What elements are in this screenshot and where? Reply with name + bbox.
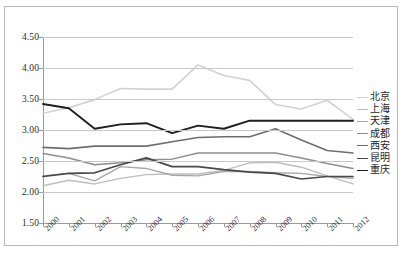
legend-swatch-icon bbox=[357, 121, 368, 122]
y-tick-mark bbox=[39, 130, 43, 131]
legend-item[interactable]: 天津 bbox=[357, 115, 404, 127]
legend-swatch-icon bbox=[357, 109, 368, 110]
y-tick-label: 2.50 bbox=[22, 156, 39, 166]
x-tick-mark bbox=[69, 223, 70, 227]
x-tick-mark bbox=[224, 223, 225, 227]
x-tick-mark bbox=[172, 223, 173, 227]
y-tick-mark bbox=[39, 68, 43, 69]
gridline bbox=[43, 192, 353, 193]
series-line bbox=[43, 104, 353, 133]
x-tick-mark bbox=[43, 223, 44, 227]
x-tick-mark bbox=[198, 223, 199, 227]
gridline bbox=[43, 68, 353, 69]
legend-swatch-icon bbox=[357, 170, 368, 171]
gridline bbox=[43, 37, 353, 38]
y-tick-mark bbox=[39, 37, 43, 38]
legend-item-label: 天津 bbox=[370, 116, 390, 126]
legend-item[interactable]: 上海 bbox=[357, 103, 404, 115]
legend-swatch-icon bbox=[357, 133, 368, 134]
x-tick-mark bbox=[250, 223, 251, 227]
x-tick-mark bbox=[121, 223, 122, 227]
chart-screenshot: 1.502.002.503.003.504.004.50 20002001200… bbox=[0, 0, 404, 261]
x-tick-label: 2012 bbox=[352, 214, 371, 233]
legend-item[interactable]: 西安 bbox=[357, 140, 404, 152]
legend-swatch-icon bbox=[357, 145, 368, 146]
y-tick-label: 1.50 bbox=[22, 218, 39, 228]
gridline bbox=[43, 130, 353, 131]
legend-item-label: 重庆 bbox=[370, 165, 390, 175]
x-axis-labels: 2000200120022003200420052006200720082009… bbox=[43, 226, 354, 261]
y-tick-mark bbox=[39, 192, 43, 193]
plot-area bbox=[43, 37, 353, 223]
x-tick-mark bbox=[276, 223, 277, 227]
legend-item[interactable]: 昆明 bbox=[357, 152, 404, 164]
gridline bbox=[43, 161, 353, 162]
legend-item-label: 昆明 bbox=[370, 153, 390, 163]
y-tick-label: 4.50 bbox=[22, 32, 39, 42]
series-line bbox=[43, 129, 353, 153]
legend-item[interactable]: 北京 bbox=[357, 91, 404, 103]
y-tick-label: 2.00 bbox=[22, 187, 39, 197]
x-tick-mark bbox=[353, 223, 354, 227]
y-tick-label: 3.50 bbox=[22, 94, 39, 104]
legend-swatch-icon bbox=[357, 158, 368, 159]
x-tick-mark bbox=[146, 223, 147, 227]
legend-item-label: 成都 bbox=[370, 129, 390, 139]
x-tick-mark bbox=[301, 223, 302, 227]
legend-item-label: 上海 bbox=[370, 104, 390, 114]
legend-item-label: 北京 bbox=[370, 92, 390, 102]
y-axis-labels: 1.502.002.503.003.504.004.50 bbox=[5, 37, 39, 223]
y-tick-label: 4.00 bbox=[22, 63, 39, 73]
legend-swatch-icon bbox=[357, 97, 368, 98]
legend-item[interactable]: 重庆 bbox=[357, 164, 404, 176]
y-tick-mark bbox=[39, 99, 43, 100]
x-tick-mark bbox=[95, 223, 96, 227]
legend-item[interactable]: 成都 bbox=[357, 128, 404, 140]
legend-item-label: 西安 bbox=[370, 141, 390, 151]
gridline bbox=[43, 99, 353, 100]
y-tick-mark bbox=[39, 161, 43, 162]
chart-frame: 1.502.002.503.003.504.004.50 20002001200… bbox=[4, 6, 398, 246]
chart-legend: 北京上海天津成都西安昆明重庆 bbox=[357, 91, 404, 176]
y-tick-label: 3.00 bbox=[22, 125, 39, 135]
x-tick-mark bbox=[327, 223, 328, 227]
series-line bbox=[43, 65, 353, 120]
